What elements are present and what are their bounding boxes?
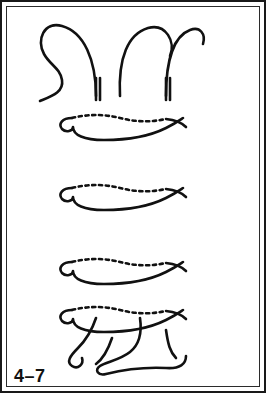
- beading-diagram: [0, 0, 266, 393]
- thread-bottom-crossings: [69, 318, 186, 374]
- thread-top-needles-front: [96, 78, 170, 100]
- thread-top-loops-back: [40, 25, 204, 101]
- thread-wraps-visible: [60, 118, 186, 332]
- figure-root: 4–7: [0, 0, 266, 393]
- figure-caption: 4–7: [14, 367, 46, 385]
